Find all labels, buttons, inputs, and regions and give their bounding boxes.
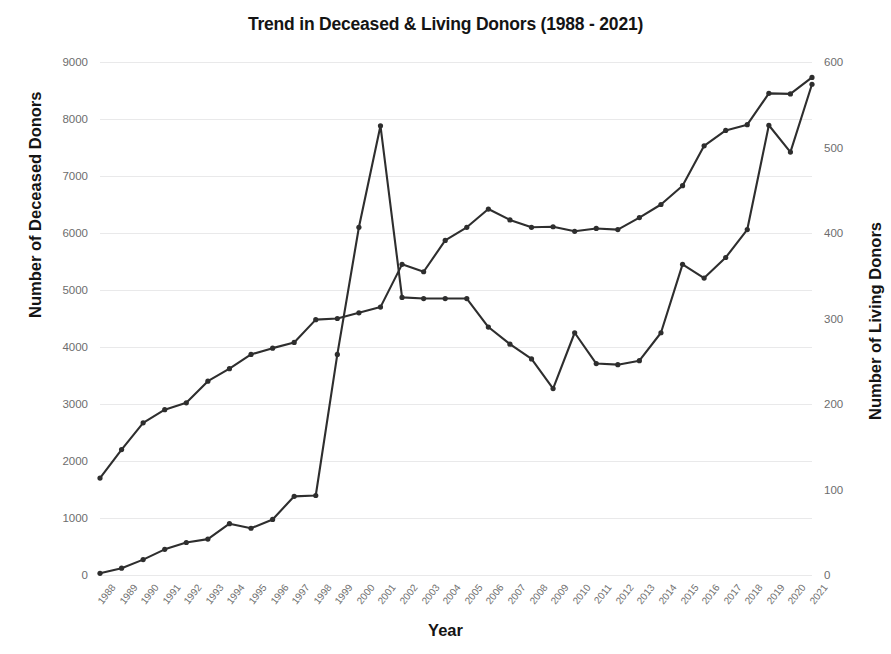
x-axis-tick-label: 2014 [656,582,678,606]
series-marker [745,122,750,127]
series-marker [594,226,599,231]
series-marker [702,275,707,280]
y-axis-left-tick-label: 0 [82,569,88,581]
series-marker [550,224,555,229]
series-marker [529,225,534,230]
series-marker [658,202,663,207]
x-axis-tick-label: 1993 [203,582,225,606]
x-axis-tick-label: 2013 [635,582,657,606]
x-axis-title: Year [0,621,891,640]
series-marker [723,255,728,260]
x-axis-tick-label: 2020 [786,582,808,606]
series-marker [292,340,297,345]
series-marker [356,310,361,315]
series-marker [184,400,189,405]
series-marker [550,386,555,391]
series-marker [766,123,771,128]
x-axis-tick-label: 2006 [484,582,506,606]
y-axis-left-tick-label: 7000 [62,170,88,182]
series-marker [248,352,253,357]
series-marker [292,494,297,499]
y-axis-right-tick-label: 600 [824,56,843,68]
series-marker [248,526,253,531]
series-marker [486,206,491,211]
series-marker [270,517,275,522]
x-axis-tick-label: 2003 [419,582,441,606]
series-marker [356,225,361,230]
x-axis-tick-label: 2000 [354,582,376,606]
x-axis-tick-label: 1989 [117,582,139,606]
x-axis-tick-label: 1990 [138,582,160,606]
series-marker [809,82,814,87]
series-marker [464,225,469,230]
y-axis-left-tick-label: 1000 [62,512,88,524]
y-axis-right-tick-label: 300 [824,313,843,325]
x-axis-tick-label: 2002 [397,582,419,606]
series-marker [637,215,642,220]
gridline [100,575,812,576]
series-marker [313,317,318,322]
x-axis-tick-label: 1997 [289,582,311,606]
series-marker [399,295,404,300]
x-axis-tick-label: 1992 [182,582,204,606]
x-axis-tick-label: 2021 [807,582,829,606]
x-axis-tick-label: 2005 [462,582,484,606]
series-marker [637,358,642,363]
series-marker [788,91,793,96]
series-line-living-donors [100,84,812,573]
x-axis-tick-label: 2001 [376,582,398,606]
series-marker [97,571,102,576]
x-axis-tick-label: 2019 [764,582,786,606]
series-marker [594,361,599,366]
series-marker [421,269,426,274]
x-axis-tick-label: 1996 [268,582,290,606]
series-marker [227,521,232,526]
y-axis-left-tick-label: 5000 [62,284,88,296]
x-axis-tick-label: 2017 [721,582,743,606]
series-marker [162,547,167,552]
series-marker [97,476,102,481]
series-marker [421,296,426,301]
series-marker [788,149,793,154]
series-marker [615,362,620,367]
series-marker [486,324,491,329]
y-axis-right-tick-label: 0 [824,569,830,581]
x-axis-tick-label: 1998 [311,582,333,606]
y-axis-left-title: Number of Deceased Donors [26,92,45,318]
y-axis-right-tick-label: 200 [824,398,843,410]
x-axis-tick-label: 2016 [699,582,721,606]
series-marker [702,143,707,148]
series-marker [443,296,448,301]
series-marker [507,342,512,347]
series-marker [378,123,383,128]
y-axis-left-tick-label: 2000 [62,455,88,467]
x-axis-tick-label: 2009 [548,582,570,606]
y-axis-right-tick-label: 500 [824,142,843,154]
x-axis-tick-label: 1991 [160,582,182,606]
series-marker [205,536,210,541]
series-marker [572,330,577,335]
series-marker [529,356,534,361]
series-marker [507,217,512,222]
y-axis-left-tick-label: 3000 [62,398,88,410]
y-axis-right-tick-label: 100 [824,484,843,496]
series-marker [119,566,124,571]
series-marker [572,229,577,234]
y-axis-left-tick-label: 6000 [62,227,88,239]
plot-area: 0100020003000400050006000700080009000 01… [100,62,812,575]
series-marker [464,296,469,301]
series-marker [399,262,404,267]
y-axis-left-tick-label: 9000 [62,56,88,68]
x-axis-tick-label: 1995 [246,582,268,606]
series-marker [745,227,750,232]
x-axis-tick-label: 2015 [678,582,700,606]
series-marker [162,407,167,412]
x-axis-tick-label: 1994 [225,582,247,606]
series-marker [615,227,620,232]
series-group [100,62,812,575]
series-marker [809,75,814,80]
x-axis-tick-label: 2010 [570,582,592,606]
x-axis-tick-label: 2004 [441,582,463,606]
series-marker [270,346,275,351]
line-chart: Trend in Deceased & Living Donors (1988 … [0,0,891,654]
